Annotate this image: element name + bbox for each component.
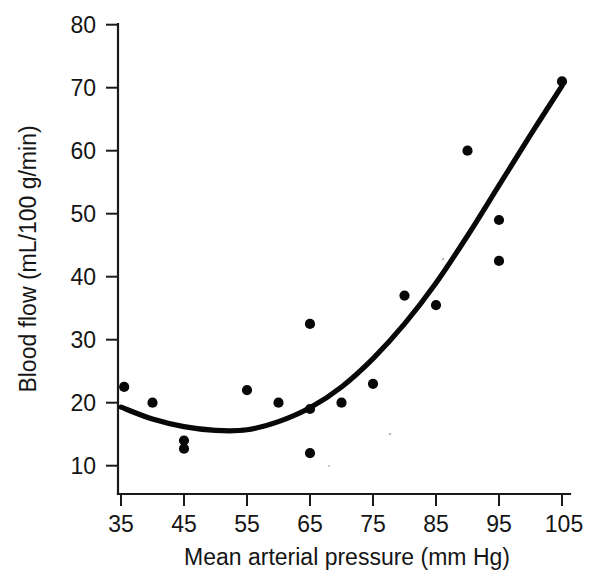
data-point [147,398,157,408]
data-point [242,385,252,395]
data-point [494,256,504,266]
x-tick-label-65: 65 [297,511,323,537]
y-tick-label-40: 40 [70,264,96,290]
data-point [305,448,315,458]
data-point [179,444,189,454]
x-tick-label-45: 45 [171,511,197,537]
data-point [462,146,472,156]
x-tick-label-95: 95 [486,511,512,537]
scan-speck [389,433,392,436]
data-point [336,398,346,408]
y-tick-label-70: 70 [70,75,96,101]
data-point [305,404,315,414]
data-point [305,319,315,329]
x-tick-label-105: 105 [545,511,583,537]
figure-container: 80 70 60 50 40 30 20 10 35 45 55 65 75 [0,0,600,574]
y-axis-tick-labels: 80 70 60 50 40 30 20 10 [70,12,96,479]
x-axis-title: Mean arterial pressure (mm Hg) [184,544,510,570]
scan-speck [328,465,330,467]
data-point [273,398,283,408]
data-point [431,300,441,310]
y-tick-label-20: 20 [70,390,96,416]
y-tick-label-30: 30 [70,327,96,353]
y-tick-label-50: 50 [70,201,96,227]
x-axis-tick-labels: 35 45 55 65 75 85 95 105 [108,511,583,537]
x-tick-label-55: 55 [234,511,260,537]
data-point [494,215,504,225]
data-point [119,382,129,392]
data-point [399,291,409,301]
data-point [368,379,378,389]
y-axis-title: Blood flow (mL/100 g/min) [15,125,41,392]
x-tick-label-85: 85 [423,511,449,537]
y-tick-label-10: 10 [70,453,96,479]
y-tick-label-60: 60 [70,138,96,164]
data-point [557,76,567,86]
x-tick-label-75: 75 [360,511,386,537]
y-tick-label-80: 80 [70,12,96,38]
x-axis-ticks [121,494,562,506]
data-points-layer [119,76,567,458]
scatter-plot: 80 70 60 50 40 30 20 10 35 45 55 65 75 [0,0,600,574]
y-axis-ticks [106,25,118,466]
x-tick-label-35: 35 [108,511,134,537]
scan-speck [442,258,445,261]
